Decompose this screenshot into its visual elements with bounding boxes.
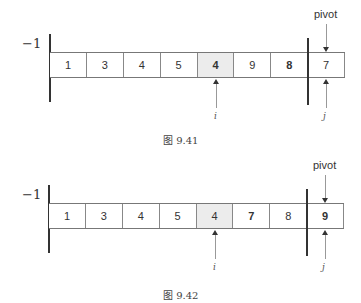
array-cell-5: 7 [233, 204, 270, 228]
j-pointer-label: j [322, 262, 325, 272]
figure-9-42: −1 1 3 4 5 4 7 8 9 pivot i j 图 9.42 [0, 150, 361, 300]
figure-9-41: −1 1 3 4 5 4 9 8 7 pivot i j 图 9.41 [0, 0, 361, 150]
pivot-arrow-down-icon [323, 47, 329, 52]
array-cell-4-i: 4 [197, 204, 234, 228]
partition-divider-line [307, 38, 309, 105]
array-cell-3: 5 [160, 204, 197, 228]
array-cell-7-pivot: 7 [308, 53, 345, 77]
i-pointer-label: i [214, 111, 217, 121]
pivot-label: pivot [313, 159, 336, 171]
left-boundary-label: −1 [22, 187, 41, 202]
figure-caption: 图 9.42 [163, 287, 198, 302]
i-arrow-line [216, 84, 217, 108]
array-cell-6: 8 [271, 53, 308, 77]
pivot-arrow-line [326, 24, 327, 48]
pivot-arrow-line [325, 175, 326, 199]
j-arrow-line [326, 84, 327, 108]
array-cell-0: 1 [49, 204, 86, 228]
left-boundary-label: −1 [22, 36, 41, 51]
array-cell-7-pivot: 9 [307, 204, 344, 228]
j-pointer-label: j [323, 111, 326, 121]
pivot-label: pivot [314, 8, 337, 20]
pivot-arrow-down-icon [322, 198, 328, 203]
array-cell-4-i: 4 [198, 53, 235, 77]
array-cell-6: 8 [270, 204, 307, 228]
i-pointer-label: i [213, 262, 216, 272]
array-cell-3: 5 [161, 53, 198, 77]
array-cell-2: 4 [123, 204, 160, 228]
array-row: 1 3 4 5 4 7 8 9 [49, 203, 344, 229]
i-arrow-line [215, 235, 216, 259]
array-cell-5: 9 [234, 53, 271, 77]
figure-caption: 图 9.41 [163, 132, 198, 147]
array-cell-1: 3 [86, 204, 123, 228]
j-arrow-line [325, 235, 326, 259]
partition-divider-line [306, 189, 308, 256]
array-cell-2: 4 [124, 53, 161, 77]
array-row: 1 3 4 5 4 9 8 7 [50, 52, 345, 78]
array-cell-0: 1 [50, 53, 87, 77]
array-cell-1: 3 [87, 53, 124, 77]
